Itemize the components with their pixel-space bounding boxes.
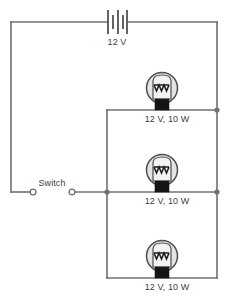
lamp-middle-label: 12 V, 10 W — [145, 196, 190, 206]
battery-icon — [108, 10, 127, 34]
lamp-bottom-label: 12 V, 10 W — [145, 282, 190, 292]
junction-right-middle — [214, 189, 219, 194]
lamp-top-label: 12 V, 10 W — [145, 114, 190, 124]
circuit-diagram: 12 V Switch 12 V, 10 W 12 V, 10 W 12 V, … — [0, 0, 236, 307]
junction-left-branch — [104, 189, 109, 194]
lamp-symbol-bottom — [147, 241, 178, 279]
switch-icon[interactable] — [30, 189, 75, 195]
lamp-symbol-middle — [147, 155, 178, 193]
switch-label: Switch — [38, 178, 65, 188]
junction-right-top — [214, 107, 219, 112]
lamp-symbol-top — [147, 73, 178, 111]
battery-label: 12 V — [108, 37, 127, 47]
